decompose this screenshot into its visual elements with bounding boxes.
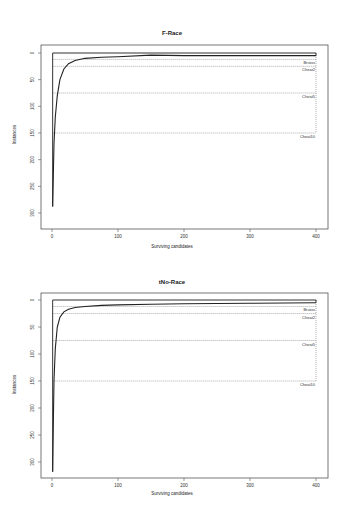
y-tick-label: 300 — [30, 458, 35, 466]
data-curve — [53, 303, 316, 472]
y-tick-label: 50 — [30, 324, 35, 330]
x-tick-label: 0 — [51, 483, 54, 488]
reference-label: Cheat10 — [300, 382, 316, 387]
y-tick-label: 100 — [30, 350, 35, 358]
x-tick-label: 400 — [312, 483, 320, 488]
y-axis-label: Instances — [12, 375, 17, 394]
reference-label: Brutus — [303, 307, 315, 312]
x-axis-label: Surviving candidates — [0, 491, 344, 496]
y-tick-label: 200 — [30, 404, 35, 412]
x-tick-label: 200 — [180, 483, 188, 488]
reference-label: Cheat5 — [302, 342, 316, 347]
x-tick-label: 100 — [114, 483, 122, 488]
plot-frame — [41, 293, 328, 478]
reference-label: Cheat2 — [302, 315, 316, 320]
y-tick-label: 150 — [30, 377, 35, 385]
x-tick-label: 300 — [246, 483, 254, 488]
y-tick-label: 250 — [30, 431, 35, 439]
chart-tno-race: tNo-Race 0100200300400050100150200250300… — [0, 0, 344, 521]
plot-area: 0100200300400050100150200250300BrutusChe… — [0, 0, 344, 521]
y-tick-label: 0 — [30, 298, 35, 301]
